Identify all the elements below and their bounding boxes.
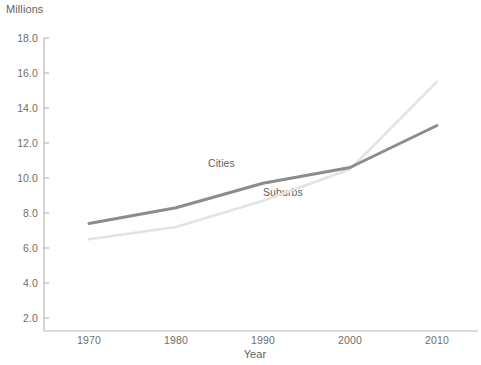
series-line-cities (89, 126, 437, 224)
y-axis-tick-marks (44, 38, 49, 318)
series-lines (89, 82, 437, 240)
plot-area (0, 0, 481, 365)
line-chart: Millions 18.0 16.0 14.0 12.0 10.0 8.0 6.… (0, 0, 481, 365)
series-line-suburbs (89, 82, 437, 240)
